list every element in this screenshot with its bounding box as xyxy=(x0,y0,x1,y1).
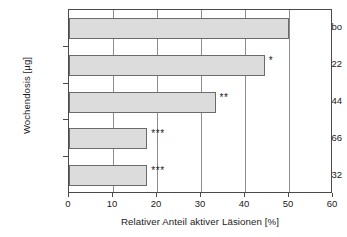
significance-marker: *** xyxy=(151,166,164,176)
x-axis-tick-label: 40 xyxy=(224,198,264,209)
plot-area: ********* xyxy=(68,9,332,193)
x-axis-tick-label: 20 xyxy=(136,198,176,209)
bar xyxy=(69,165,147,186)
bar xyxy=(69,92,216,113)
x-axis-tick-label: 0 xyxy=(48,198,88,209)
significance-marker: ** xyxy=(220,93,229,103)
x-axis-tick-mark xyxy=(244,193,245,197)
significance-marker: * xyxy=(269,56,274,66)
x-axis-tick-mark xyxy=(332,193,333,197)
x-axis-tick-mark xyxy=(68,193,69,197)
y-axis-title: Wochendosis [µg] xyxy=(21,21,32,171)
x-axis-tick-label: 10 xyxy=(92,198,132,209)
bar xyxy=(69,55,265,76)
x-axis-tick-label: 60 xyxy=(312,198,347,209)
x-axis-tick-mark xyxy=(288,193,289,197)
bar xyxy=(69,18,289,39)
x-axis-tick-mark xyxy=(200,193,201,197)
x-axis-tick-label: 30 xyxy=(180,198,220,209)
x-axis-tick-mark xyxy=(156,193,157,197)
x-axis-tick-label: 50 xyxy=(268,198,308,209)
significance-marker: *** xyxy=(151,129,164,139)
x-axis-title: Relativer Anteil aktiver Läsionen [%] xyxy=(68,216,332,227)
x-axis-tick-mark xyxy=(112,193,113,197)
bar xyxy=(69,128,147,149)
gridline xyxy=(289,10,290,192)
